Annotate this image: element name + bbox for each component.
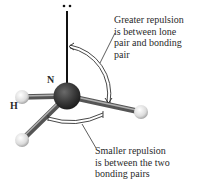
nitrogen-label: N [47, 74, 54, 85]
hydrogen-atom-bottom-left [15, 133, 29, 147]
lone-pair-electron-icon [69, 5, 72, 8]
lower-annotation-text: Smaller repulsion is between the two bon… [95, 145, 170, 180]
lone-pair-electron-icon [63, 5, 66, 8]
nitrogen-atom [54, 83, 81, 110]
upper-annotation-text: Greater repulsion is between lone pair a… [114, 14, 184, 60]
lower-leader-line [82, 124, 96, 148]
hydrogen-atom-right [134, 105, 148, 119]
hydrogen-label: H [10, 100, 18, 111]
bonds [21, 95, 141, 140]
upper-leader-line [100, 33, 115, 63]
arrowhead-icon [69, 43, 74, 50]
lower-repulsion-arc [48, 111, 103, 148]
